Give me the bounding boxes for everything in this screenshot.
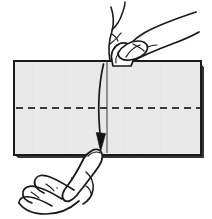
lower-hand-detail-dot-b [56, 187, 58, 189]
paper-sheet [14, 61, 204, 158]
diagram-canvas [0, 0, 212, 219]
origami-diagram: Valley fold in half, bottom edge up to t… [0, 0, 212, 219]
lower-hand-thumb-crease [86, 186, 91, 194]
upper-hand-detail-dot [141, 55, 143, 57]
upper-hand [109, 2, 199, 66]
lower-hand-palm-outline [19, 201, 79, 214]
upper-hand-raised-finger-b [112, 2, 125, 30]
lower-hand-detail-dot-a [71, 177, 73, 179]
upper-hand-skin-mark [147, 45, 157, 47]
lower-hand [19, 149, 102, 214]
